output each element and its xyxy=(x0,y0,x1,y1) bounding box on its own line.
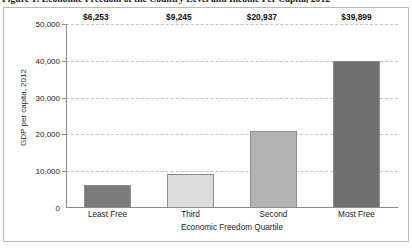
x-tick-label-third: Third xyxy=(149,210,232,219)
bar-slot-least-free: $6,253 xyxy=(66,24,149,208)
plot-area: 50,000 40,000 30,000 20,000 10,000 0 $6,… xyxy=(66,24,398,208)
bar-least-free[interactable] xyxy=(84,185,131,208)
chart-frame: GDP per capita, 2012 50,000 40,000 30,00… xyxy=(3,7,409,242)
y-tick-label-50000: 50,000 xyxy=(36,20,60,29)
y-tick-label-40000: 40,000 xyxy=(36,56,60,65)
bar-most-free[interactable] xyxy=(333,61,380,208)
y-tick-label-30000: 30,000 xyxy=(36,93,60,102)
x-tick-label-second: Second xyxy=(232,210,315,219)
y-tick-label-10000: 10,000 xyxy=(36,167,60,176)
bar-series: $6,253 $9,245 $20,937 $39,899 xyxy=(66,24,398,208)
bar-slot-second: $20,937 xyxy=(232,24,315,208)
bar-slot-most-free: $39,899 xyxy=(315,24,398,208)
bar-second[interactable] xyxy=(250,131,297,208)
figure-caption: Figure 1: Economic Freedom of the Countr… xyxy=(2,0,410,5)
bar-value-most-free: $39,899 xyxy=(341,12,371,22)
x-axis-tick-labels: Least Free Third Second Most Free xyxy=(66,210,398,219)
x-tick-label-least-free: Least Free xyxy=(66,210,149,219)
bar-value-least-free: $6,253 xyxy=(83,12,109,22)
bar-value-third: $9,245 xyxy=(166,12,192,22)
bar-third[interactable] xyxy=(167,174,214,208)
figure-container: Figure 1: Economic Freedom of the Countr… xyxy=(0,0,412,251)
y-axis-title: GDP per capita, 2012 xyxy=(19,43,28,173)
bar-slot-third: $9,245 xyxy=(149,24,232,208)
x-axis-title: Economic Freedom Quartile xyxy=(66,223,398,232)
bar-value-second: $20,937 xyxy=(247,12,277,22)
x-tick-label-most-free: Most Free xyxy=(315,210,398,219)
y-tick-label-20000: 20,000 xyxy=(36,130,60,139)
y-tick-label-0: 0 xyxy=(56,204,60,213)
